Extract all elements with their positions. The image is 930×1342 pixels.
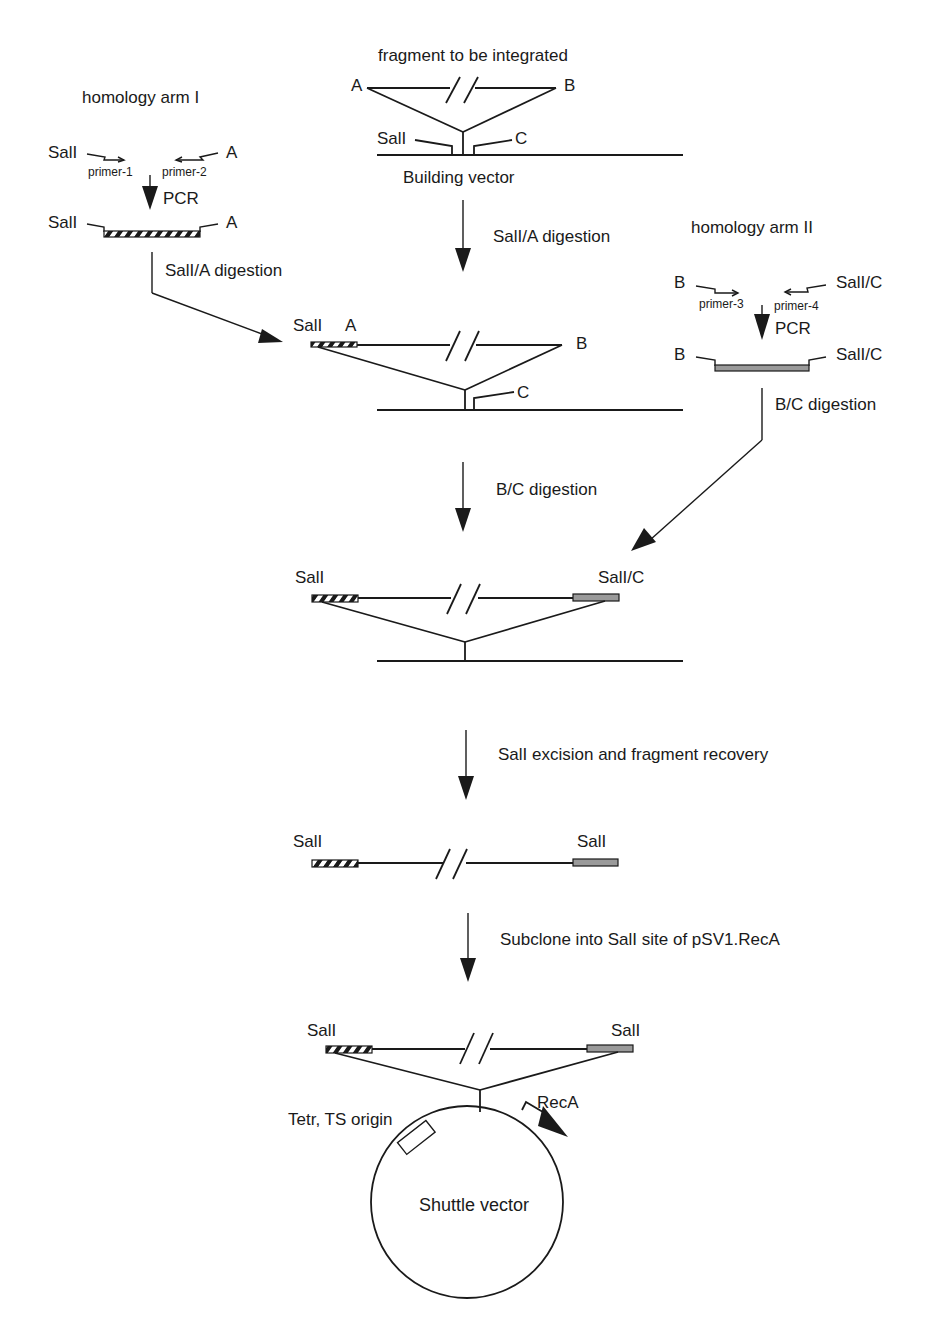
hatched-arm-1-bar: [312, 860, 358, 867]
arm1-product-right: A: [226, 213, 238, 232]
arm1-pcr-label: PCR: [163, 189, 199, 208]
pcr-arrow-icon: [754, 314, 770, 340]
arrow-diagonal-icon: [631, 528, 656, 551]
building-vector-construct: fragment to be integrated A B SalI C Bui…: [351, 46, 683, 187]
break-mark: [447, 584, 461, 614]
arm1-right-site: A: [226, 143, 238, 162]
arm1-digestion-label: SalI/A digestion: [165, 261, 282, 280]
primer-3-icon: [696, 286, 738, 293]
stage4-right-label: SalI: [577, 832, 606, 851]
stage2-a-label: A: [345, 316, 357, 335]
stage4-left-label: SalI: [293, 832, 322, 851]
stage2-b-label: B: [576, 334, 587, 353]
primer-2-icon: [176, 153, 218, 160]
intermediate-construct-2: SalI SalI/C: [295, 568, 683, 661]
shuttle-vector-construct: SalI SalI Shuttle vector Tetr, TS origin…: [288, 1021, 640, 1298]
hatched-arm-1-bar: [312, 595, 358, 602]
arrow-diagonal-icon: [258, 329, 283, 343]
arm2-digestion-label: B/C digestion: [775, 395, 876, 414]
building-vector-label: Building vector: [403, 168, 515, 187]
fragment-label: fragment to be integrated: [378, 46, 568, 65]
stage5-right-label: SalI: [611, 1021, 640, 1040]
gray-arm-2-bar: [587, 1045, 633, 1052]
arm2-product-right: SalI/C: [836, 345, 882, 364]
step-arrow-subclone: Subclone into SalI site of pSV1.RecA: [460, 913, 780, 982]
primer-2-label: primer-2: [162, 165, 207, 179]
step-arrow-excision: SalI excision and fragment recovery: [458, 730, 769, 800]
gray-arm-2-bar: [573, 594, 619, 601]
primer-4-label: primer-4: [774, 299, 819, 313]
arrow-down-icon: [455, 508, 471, 532]
site-b-label: B: [564, 76, 575, 95]
step-label: Subclone into SalI site of pSV1.RecA: [500, 930, 780, 949]
hatched-arm-1-bar: [311, 342, 357, 347]
primer-1-label: primer-1: [88, 165, 133, 179]
stage2-sall-label: SalI: [293, 316, 322, 335]
arrow-down-icon: [458, 776, 474, 800]
reca-label: RecA: [537, 1093, 579, 1112]
stage3-right-label: SalI/C: [598, 568, 644, 587]
step-label: SalI/A digestion: [493, 227, 610, 246]
homology-arm-1: homology arm I SalI A primer-1 primer-2 …: [48, 88, 283, 343]
recovered-fragment: SalI SalI: [293, 832, 618, 879]
tet-origin-box: [398, 1120, 436, 1154]
site-a-label: A: [351, 76, 363, 95]
break-mark: [436, 849, 450, 879]
shuttle-vector-label: Shuttle vector: [419, 1195, 529, 1215]
gray-arm-2-bar: [573, 859, 618, 866]
pcr-arrow-icon: [142, 186, 158, 210]
homology-arm-2: homology arm II B SalI/C primer-3 primer…: [631, 218, 882, 551]
arrow-down-icon: [455, 248, 471, 272]
arm1-product-left: SalI: [48, 213, 77, 232]
hatched-arm-1-bar: [104, 231, 200, 237]
step-arrow-sall-a: SalI/A digestion: [455, 200, 610, 272]
intermediate-construct-1: SalI A B C: [293, 316, 683, 410]
arm2-product-left: B: [674, 345, 685, 364]
step-arrow-bc: B/C digestion: [455, 462, 597, 532]
arm2-pcr-label: PCR: [775, 319, 811, 338]
primer-4-icon: [785, 285, 826, 292]
step-label: B/C digestion: [496, 480, 597, 499]
site-sall-label: SalI: [377, 129, 406, 148]
arm2-title: homology arm II: [691, 218, 813, 237]
break-mark: [446, 77, 460, 103]
primer-3-label: primer-3: [699, 297, 744, 311]
arrow-down-icon: [460, 958, 476, 982]
hatched-arm-1-bar: [326, 1046, 372, 1053]
arm1-left-site: SalI: [48, 143, 77, 162]
site-c-label: C: [515, 129, 527, 148]
break-mark: [446, 331, 460, 361]
stage3-left-label: SalI: [295, 568, 324, 587]
step-label: SalI excision and fragment recovery: [498, 745, 769, 764]
arm2-right-site: SalI/C: [836, 273, 882, 292]
stage5-left-label: SalI: [307, 1021, 336, 1040]
arm2-left-site: B: [674, 273, 685, 292]
gray-arm-2-bar: [715, 365, 809, 371]
cloning-diagram: fragment to be integrated A B SalI C Bui…: [0, 0, 930, 1342]
arm1-title: homology arm I: [82, 88, 199, 107]
stage2-c-label: C: [517, 383, 529, 402]
tet-origin-label: Tetr, TS origin: [288, 1110, 393, 1129]
